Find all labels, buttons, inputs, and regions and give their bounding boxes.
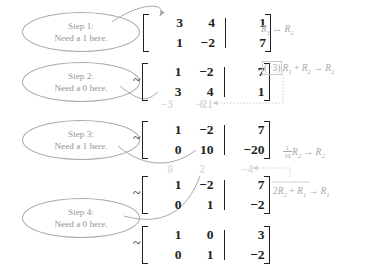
augment-divider-2 [224, 67, 225, 97]
tilde-2: ~ [133, 74, 141, 88]
m3-r2aug: −20 [229, 142, 265, 158]
row-operation-4: 2R2 + R1 → R1 [273, 185, 330, 201]
op4-sub-c: 1 [326, 191, 329, 198]
matrix-3: ~ 1 −2 7 0 10 −20 [133, 121, 270, 159]
m4-r2c2: 1 [182, 197, 220, 213]
matrix-4-brackets: 1 −2 7 0 1 −2 [142, 176, 270, 214]
m2-r2aug: 1 [229, 84, 265, 100]
matrix-5: ~ 1 0 3 0 1 −2 [133, 226, 270, 264]
op3-denominator: 10 [283, 152, 292, 159]
augment-divider-5 [224, 230, 225, 260]
m3-r1c2: −2 [182, 122, 220, 138]
m4-r2c1: 0 [148, 197, 182, 213]
augment-divider-3 [224, 125, 225, 155]
matrix-1: 3 4 1 1 −2 7 [142, 14, 271, 52]
callout-step-2-line2: Need a 0 here. [54, 82, 107, 95]
m3-r1aug: 7 [229, 122, 265, 138]
matrix-2: ~ 1 −2 7 3 4 1 [133, 63, 270, 101]
augment-divider-4 [224, 180, 225, 210]
op4-arrow: → [306, 186, 320, 196]
m3-r2c2: 10 [182, 142, 220, 158]
m4-r1c1: 1 [148, 177, 182, 193]
m1-r2c2: −2 [183, 35, 221, 51]
matrix-1-brackets: 3 4 1 1 −2 7 [143, 14, 271, 52]
matrix-4: ~ 1 −2 7 0 1 −2 [133, 176, 270, 214]
tilde-4: ~ [133, 187, 141, 201]
m5-r2aug: −2 [229, 247, 265, 263]
op2-scalar: (−3) [262, 61, 282, 75]
callout-step-2: Step 2: Need a 0 here. [22, 62, 140, 102]
op2-arrow: → [311, 63, 325, 73]
row-operation-1: R1 ↔ R2 [261, 23, 294, 39]
m2-r1c1: 1 [148, 64, 182, 80]
m4-r1aug: 7 [229, 177, 265, 193]
callout-step-3: Step 3: Need a 1 here. [22, 120, 140, 160]
op3-numerator: 1 [283, 144, 292, 152]
callout-step-4: Step 4: Need a 0 here. [22, 198, 140, 238]
callout-step-3-line2: Need a 1 here. [54, 140, 107, 153]
m1-r2c1: 1 [149, 35, 183, 51]
callout-step-1: Step 1: Need a 1 here. [22, 12, 140, 52]
ghost-row-2-c2: 2 [173, 163, 211, 176]
callout-step-1-line1: Step 1: [68, 20, 94, 33]
matrix-3-brackets: 1 −2 7 0 10 −20 [142, 121, 270, 159]
callout-step-3-line1: Step 3: [68, 128, 94, 141]
row-reduction-figure: Step 1: Need a 1 here. Step 2: Need a 0 … [0, 0, 365, 269]
augment-divider-1 [225, 18, 226, 48]
m3-r2c1: 0 [148, 142, 182, 158]
op2-plus: + [292, 63, 302, 73]
callout-step-2-line1: Step 2: [68, 70, 94, 83]
op1-arrow: ↔ [270, 24, 284, 34]
tilde-3: ~ [133, 132, 141, 146]
callout-step-1-line2: Need a 1 here. [54, 32, 107, 45]
row-operation-3: 110R2 → R2 [283, 144, 325, 162]
m1-r1c1: 3 [149, 15, 183, 31]
op3-fraction: 110 [283, 144, 292, 159]
op3-sub-b: 2 [321, 152, 324, 159]
m5-r2c2: 1 [182, 247, 220, 263]
m1-r1c2: 4 [183, 15, 221, 31]
m2-r1aug: 7 [229, 64, 265, 80]
op2-sub-c: 2 [331, 68, 334, 75]
op4-plus: + [287, 186, 297, 196]
tilde-5: ~ [133, 237, 141, 251]
callout-step-4-line2: Need a 0 here. [54, 218, 107, 231]
ghost-row-2-aug: −4 [215, 163, 253, 176]
m5-r2c1: 0 [148, 247, 182, 263]
ghost-row-2-c1: 0 [139, 163, 173, 176]
ghost-row-1-aug: −21 [175, 98, 213, 111]
m3-r1c1: 1 [148, 122, 182, 138]
m4-r1c2: −2 [182, 177, 220, 193]
m5-r1aug: 3 [229, 227, 265, 243]
matrix-5-brackets: 1 0 3 0 1 −2 [142, 226, 270, 264]
m5-r1c2: 0 [182, 227, 220, 243]
m2-r1c2: −2 [182, 64, 220, 80]
m5-r1c1: 1 [148, 227, 182, 243]
ghost-row-1-c1: −3 [139, 98, 173, 111]
callout-step-4-line1: Step 4: [68, 206, 94, 219]
op1-sub-b: 2 [290, 29, 293, 36]
matrix-2-brackets: 1 −2 7 3 4 1 [142, 63, 270, 101]
m4-r2aug: −2 [229, 197, 265, 213]
op3-arrow: → [301, 147, 315, 157]
row-operation-2: (−3)R1 + R2 → R2 [262, 61, 334, 78]
